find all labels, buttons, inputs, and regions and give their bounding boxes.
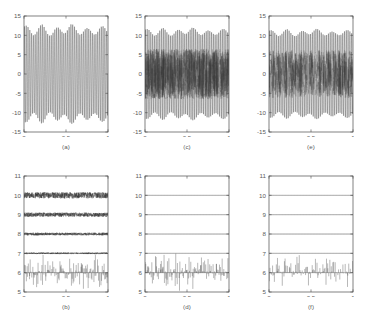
svg-text:0: 0 (143, 134, 147, 138)
svg-text:-15: -15 (12, 128, 22, 135)
svg-text:0: 0 (267, 134, 271, 138)
svg-text:1: 1 (351, 134, 355, 138)
svg-text:-5: -5 (136, 90, 142, 97)
panel-c-caption: (c) (145, 143, 229, 150)
panel-e-caption: (e) (269, 143, 353, 150)
svg-text:0: 0 (143, 294, 147, 298)
svg-text:10: 10 (135, 32, 142, 39)
svg-text:-10: -10 (257, 109, 267, 116)
svg-text:10: 10 (14, 32, 21, 39)
svg-text:-10: -10 (12, 109, 22, 116)
svg-text:8: 8 (18, 230, 22, 237)
svg-text:6: 6 (18, 269, 22, 276)
panel-f-caption: (f) (269, 303, 353, 310)
svg-text:5: 5 (18, 51, 22, 58)
svg-text:1: 1 (227, 294, 231, 298)
svg-text:15: 15 (14, 12, 21, 19)
panel-f: 56789101100.51 (247, 172, 355, 297)
panel-b: 56789101100.51 (2, 172, 110, 297)
svg-text:7: 7 (263, 250, 267, 257)
svg-text:1: 1 (227, 134, 231, 138)
svg-text:0.5: 0.5 (307, 294, 316, 298)
figure-canvas: -15-10-505101500.51 (a) -15-10-505101500… (0, 0, 377, 323)
svg-text:10: 10 (14, 192, 21, 199)
svg-text:8: 8 (263, 230, 267, 237)
svg-text:10: 10 (135, 192, 142, 199)
svg-text:5: 5 (139, 51, 143, 58)
svg-text:1: 1 (351, 294, 355, 298)
svg-text:0: 0 (263, 70, 267, 77)
svg-text:5: 5 (18, 288, 22, 295)
svg-text:0: 0 (139, 70, 143, 77)
svg-text:9: 9 (18, 211, 22, 218)
svg-text:5: 5 (263, 288, 267, 295)
svg-text:10: 10 (259, 32, 266, 39)
svg-text:6: 6 (263, 269, 267, 276)
svg-text:-15: -15 (257, 128, 267, 135)
svg-text:11: 11 (15, 172, 22, 179)
svg-text:0.5: 0.5 (307, 134, 316, 138)
panel-b-caption: (b) (24, 303, 108, 310)
svg-text:0: 0 (22, 294, 26, 298)
svg-text:1: 1 (106, 134, 110, 138)
svg-text:-10: -10 (133, 109, 143, 116)
svg-text:15: 15 (135, 12, 142, 19)
svg-text:9: 9 (139, 211, 143, 218)
svg-text:11: 11 (136, 172, 143, 179)
panel-d: 56789101100.51 (123, 172, 231, 297)
svg-text:5: 5 (263, 51, 267, 58)
svg-text:5: 5 (139, 288, 143, 295)
svg-text:0.5: 0.5 (62, 294, 71, 298)
panel-e: -15-10-505101500.51 (247, 12, 355, 137)
svg-text:0.5: 0.5 (62, 134, 71, 138)
svg-text:8: 8 (139, 230, 143, 237)
svg-text:-5: -5 (15, 90, 21, 97)
svg-text:6: 6 (139, 269, 143, 276)
svg-text:11: 11 (260, 172, 267, 179)
svg-text:15: 15 (259, 12, 266, 19)
svg-text:0.5: 0.5 (183, 134, 192, 138)
svg-text:9: 9 (263, 211, 267, 218)
panel-c: -15-10-505101500.51 (123, 12, 231, 137)
svg-text:0: 0 (267, 294, 271, 298)
panel-a-caption: (a) (24, 143, 108, 150)
panel-d-caption: (d) (145, 303, 229, 310)
svg-text:7: 7 (18, 250, 22, 257)
svg-text:0.5: 0.5 (183, 294, 192, 298)
svg-text:10: 10 (259, 192, 266, 199)
svg-text:-5: -5 (260, 90, 266, 97)
svg-text:-15: -15 (133, 128, 143, 135)
svg-text:7: 7 (139, 250, 143, 257)
svg-text:1: 1 (106, 294, 110, 298)
svg-text:0: 0 (22, 134, 26, 138)
svg-text:0: 0 (18, 70, 22, 77)
panel-a: -15-10-505101500.51 (2, 12, 110, 137)
